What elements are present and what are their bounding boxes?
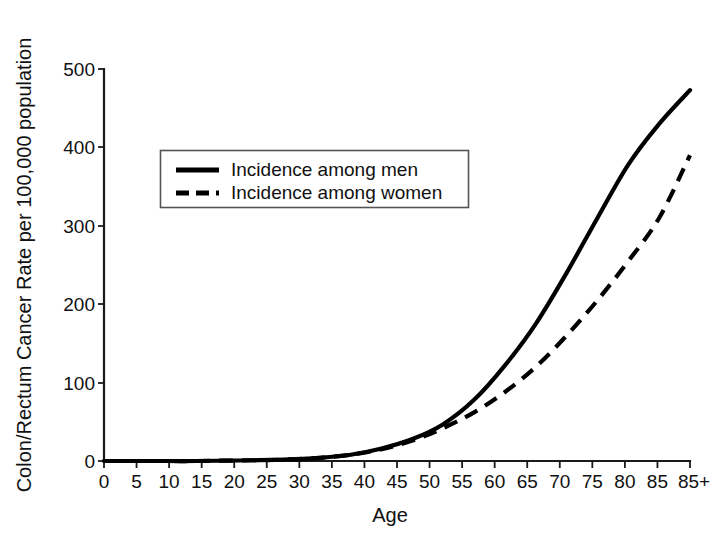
x-tick-label-15: 15 [191,471,212,492]
x-tick-label-55: 55 [452,471,473,492]
x-tick-label-40: 40 [354,471,375,492]
x-tick-label-5: 5 [131,471,142,492]
y-tick-label-100: 100 [63,373,95,394]
series-line-men [104,90,690,461]
x-tick-label-70: 70 [549,471,570,492]
colon-rectum-incidence-line-chart: Colon/Rectum Cancer Rate per 100,000 pop… [0,0,719,542]
x-tick-label-20: 20 [224,471,245,492]
x-tick-label-65: 65 [517,471,538,492]
x-tick-label-80: 80 [614,471,635,492]
x-tick-label-35: 35 [321,471,342,492]
legend-label-women: Incidence among women [231,182,442,203]
chart-figure: Colon/Rectum Cancer Rate per 100,000 pop… [0,0,719,542]
chart-legend: Incidence among men Incidence among wome… [161,151,469,208]
y-tick-label-500: 500 [63,59,95,80]
x-axis-tick-labels: 051015202530354045505560657075808585+ [99,471,710,492]
legend-label-men: Incidence among men [231,159,418,180]
y-tick-label-400: 400 [63,137,95,158]
x-tick-label-85: 85 [647,471,668,492]
y-axis-title: Colon/Rectum Cancer Rate per 100,000 pop… [13,38,35,493]
x-tick-label-45: 45 [386,471,407,492]
x-axis-title: Age [372,504,408,526]
x-tick-label-75: 75 [582,471,603,492]
y-axis-tick-labels: 500 400 300 200 100 0 [63,59,95,472]
y-tick-label-0: 0 [84,451,95,472]
x-tick-label-25: 25 [256,471,277,492]
x-tick-label-10: 10 [159,471,180,492]
x-tick-label-30: 30 [289,471,310,492]
x-tick-label-0: 0 [99,471,110,492]
x-tick-label-85+: 85+ [678,471,710,492]
y-tick-label-200: 200 [63,294,95,315]
y-tick-label-300: 300 [63,216,95,237]
x-tick-label-60: 60 [484,471,505,492]
x-tick-label-50: 50 [419,471,440,492]
